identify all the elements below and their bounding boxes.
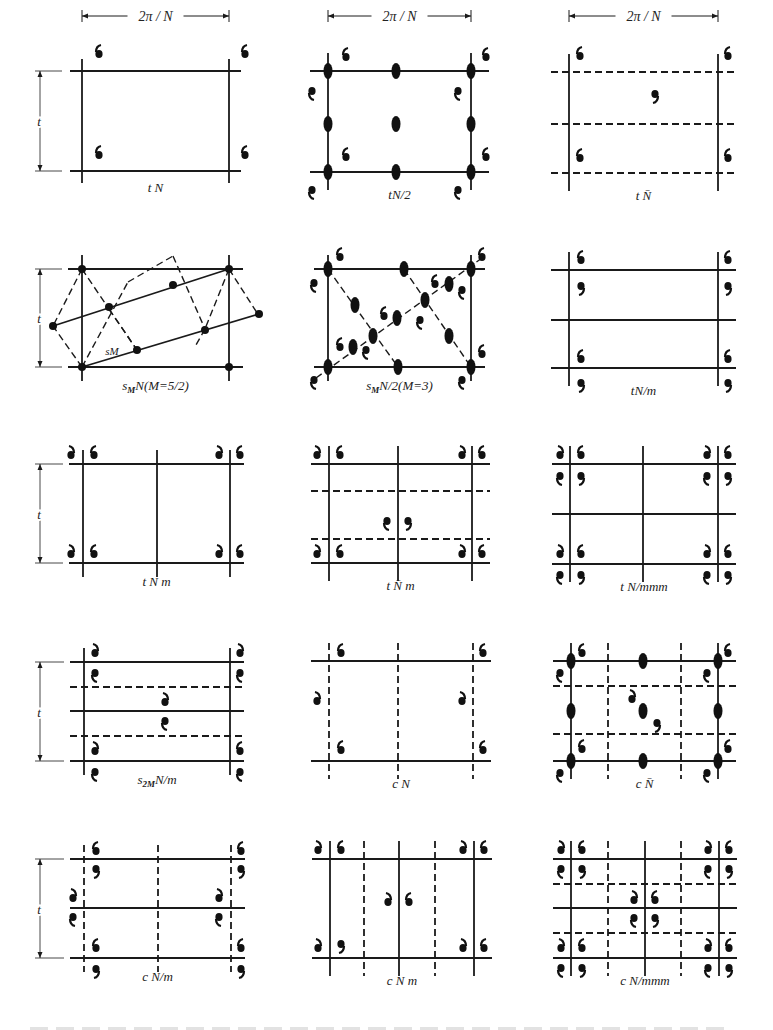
motif-comma-icon (480, 841, 487, 854)
height-dimension-arrow: tt (35, 71, 62, 171)
motif-comma-icon (557, 841, 564, 854)
motif-comma-icon (215, 889, 222, 902)
motif-comma-icon (92, 842, 99, 855)
panel-s2MNm: tts2MN/m (35, 644, 244, 789)
motif-comma-icon (215, 913, 222, 926)
motif-comma-icon (577, 571, 584, 584)
motif-comma-icon (454, 186, 461, 199)
motif-comma-icon (703, 669, 710, 682)
motif-comma-icon (236, 742, 243, 755)
screw-arrow-label: sM (105, 345, 119, 357)
twofold-axis-icon (324, 164, 333, 180)
solid-symmetry-line (82, 314, 259, 367)
panel-sMN2: sMN/2(M=3) (310, 248, 485, 395)
panel-cNbar: c N̄ (553, 643, 736, 791)
motif-comma-icon (454, 87, 461, 100)
motif-comma-icon (724, 350, 731, 363)
motif-comma-icon (724, 644, 731, 657)
height-dimension-arrow: tt (35, 859, 64, 958)
twofold-axis-icon (445, 276, 454, 292)
twofold-axis-icon (392, 164, 401, 180)
motif-comma-icon (342, 148, 349, 161)
height-dimension-arrow: tt (35, 662, 64, 761)
panel-tNmmm: t N/mmm (552, 446, 736, 594)
panel-label: t N/mmm (620, 579, 667, 594)
motif-comma-icon (577, 472, 584, 485)
motif-comma-icon (161, 693, 168, 706)
motif-comma-icon (310, 376, 317, 389)
width-label: 2π / N (626, 9, 661, 24)
twofold-axis-icon (392, 116, 401, 132)
twofold-axis-icon (467, 116, 476, 132)
motif-comma-icon (95, 45, 102, 58)
motif-comma-icon (556, 545, 563, 558)
motif-comma-icon (576, 47, 583, 60)
motif-comma-icon (577, 282, 584, 295)
twofold-axis-icon (421, 292, 430, 308)
motif-comma-icon (310, 279, 317, 292)
twofold-axis-icon (400, 261, 409, 277)
motif-comma-icon (91, 644, 98, 657)
twofold-axis-icon (351, 297, 360, 313)
panel-label: c N (392, 776, 411, 791)
panel-tN2: 2π / NtN/2 (308, 9, 489, 202)
twofold-axis-icon (445, 328, 454, 344)
motif-comma-icon (724, 379, 731, 392)
panel-cNmmm: c N/mmm (553, 841, 737, 988)
motif-comma-icon (478, 345, 485, 358)
motif-comma-icon (480, 939, 487, 952)
twofold-axis-icon (467, 63, 476, 79)
height-label: t (37, 507, 41, 522)
motif-comma-icon (703, 472, 710, 485)
motif-comma-icon (724, 740, 731, 753)
motif-comma-icon (91, 742, 98, 755)
motif-comma-icon (479, 741, 486, 754)
motif-comma-icon (724, 472, 731, 485)
panel-tN: 2π / Nttt N (35, 9, 249, 195)
motif-comma-icon (336, 338, 343, 351)
motif-comma-icon (314, 939, 321, 952)
motif-comma-icon (703, 545, 710, 558)
motif-comma-icon (241, 146, 248, 159)
motif-comma-icon (478, 248, 485, 261)
panel-cNm_over: ttc N/m (35, 842, 245, 984)
motif-comma-icon (482, 48, 489, 61)
twofold-axis-icon (369, 328, 378, 344)
motif-comma-icon (342, 48, 349, 61)
motif-comma-icon (458, 286, 465, 299)
twofold-axis-icon (467, 261, 476, 277)
motif-comma-icon (308, 186, 315, 199)
motif-comma-icon (703, 571, 710, 584)
motif-comma-icon (724, 571, 731, 584)
width-dimension-arrow: 2π / N (328, 9, 471, 24)
motif-comma-icon (95, 146, 102, 159)
motif-comma-icon (704, 865, 711, 878)
motif-comma-icon (458, 446, 465, 459)
twofold-axis-icon (567, 703, 576, 719)
motif-comma-icon (92, 865, 99, 878)
motif-comma-icon (724, 545, 731, 558)
height-dimension-arrow: tt (35, 464, 63, 563)
motif-comma-icon (313, 692, 320, 705)
width-dimension-arrow: 2π / N (82, 9, 229, 24)
motif-comma-icon (313, 545, 320, 558)
motif-comma-icon (236, 768, 243, 781)
motif-comma-icon (704, 939, 711, 952)
motif-comma-icon (578, 841, 585, 854)
motif-comma-icon (236, 644, 243, 657)
motif-comma-icon (336, 446, 343, 459)
motif-comma-icon (724, 251, 731, 264)
motif-comma-icon (236, 446, 243, 459)
line-group-diagram-figure: 2π / Nttt N2π / NtN/22π / Nt N̄ttsMsMN(M… (0, 0, 773, 1030)
motif-comma-icon (67, 446, 74, 459)
motif-comma-icon (556, 669, 563, 682)
motif-comma-icon (236, 545, 243, 558)
dashed-symmetry-line (82, 269, 109, 309)
motif-comma-icon (91, 768, 98, 781)
motif-comma-icon (336, 248, 343, 261)
motif-comma-icon (337, 940, 344, 953)
height-label: t (37, 902, 41, 917)
motif-comma-icon (92, 939, 99, 952)
motif-comma-icon (651, 90, 658, 103)
solid-symmetry-line (53, 269, 229, 326)
